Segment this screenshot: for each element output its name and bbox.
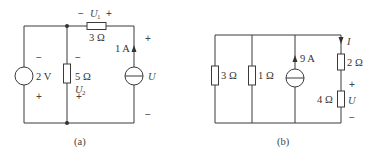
caption-a: (a) (74, 136, 86, 148)
u-polarity-bottom-a: − (145, 109, 151, 120)
u1-polarity-right: + (106, 8, 112, 19)
voltage-source-icon (15, 67, 33, 85)
u1-subscript: 1 (97, 13, 101, 21)
voltage-source-polarity-bottom: + (36, 91, 42, 102)
u1-polarity-left: − (78, 8, 84, 19)
u2-subscript: 2 (82, 89, 86, 97)
u-label-b: U (348, 95, 357, 106)
resistor-4ohm-icon (338, 91, 345, 107)
resistor-5ohm-icon (64, 64, 71, 83)
resistor-2ohm-label: 2 Ω (347, 57, 363, 68)
resistor-3ohm-b-icon (212, 66, 219, 85)
resistor-4ohm-label: 4 Ω (317, 94, 333, 105)
arrow-up-icon (293, 55, 298, 62)
u-polarity-top-b: + (349, 79, 355, 90)
resistor-5ohm-polarity-bottom: + (76, 91, 82, 102)
resistor-2ohm-icon (338, 54, 345, 70)
voltage-source-label: 2 V (36, 71, 52, 82)
current-source-9a-label: 9 A (300, 53, 315, 64)
voltage-source-polarity-top: − (36, 52, 42, 63)
resistor-3ohm-b-label: 3 Ω (221, 70, 237, 81)
circuit-a: 2 V − + 5 Ω U 2 − + 3 Ω U 1 − + 1 A U + … (15, 8, 157, 148)
node-top-a (65, 24, 69, 28)
arrow-down-icon (339, 37, 344, 44)
resistor-1ohm-icon (249, 66, 256, 85)
node-bottom-a (65, 121, 69, 125)
caption-b: (b) (277, 136, 290, 148)
circuit-b: 3 Ω 1 Ω 9 A I 2 Ω 4 Ω U + − (b) (212, 35, 363, 148)
resistor-5ohm-polarity-top: − (75, 52, 81, 63)
current-i-label: I (346, 36, 351, 47)
arrow-up-icon (132, 45, 137, 52)
resistor-3ohm-icon (87, 23, 106, 30)
u-polarity-top-a: + (145, 33, 151, 44)
current-source-1a-label: 1 A (115, 43, 130, 54)
u-label-a: U (148, 71, 157, 82)
u-polarity-bottom-b: − (349, 112, 355, 123)
resistor-1ohm-label: 1 Ω (258, 70, 274, 81)
resistor-5ohm-label: 5 Ω (75, 71, 91, 82)
resistor-3ohm-label: 3 Ω (89, 32, 105, 43)
